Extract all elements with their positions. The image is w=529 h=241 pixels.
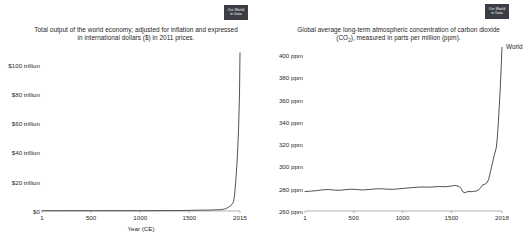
chart-title-line-2: in international dollars ($) in 2011 pri… — [78, 34, 195, 41]
logo-line-2: in Data — [224, 12, 248, 16]
x-axis-tick-label: 1500 — [445, 214, 459, 221]
chart-panel-world-gdp: Our World in Data Total output of the wo… — [0, 0, 264, 241]
y-axis-tick-label: 260 ppm — [264, 208, 303, 215]
x-axis-tick-label: 1 — [40, 214, 43, 221]
y-axis-tick-label: $40 trillion — [0, 149, 40, 156]
chart-title-line-1-post: ), — [351, 34, 355, 41]
x-axis-tick-label: 1500 — [182, 214, 196, 221]
logo-line-2: in Data — [485, 11, 509, 15]
series-label-world: World — [506, 43, 523, 50]
x-axis-label-world-gdp: Year (CE) — [128, 225, 155, 232]
plot-area-world-gdp — [42, 50, 240, 211]
y-axis-tick-label: $0 — [0, 208, 40, 215]
x-axis-tick-label: 500 — [349, 214, 359, 221]
y-axis-tick-label: $80 trillion — [0, 90, 40, 97]
x-axis-tick-label: 1000 — [133, 214, 147, 221]
chart-title-world-gdp: Total output of the world economy; adjus… — [0, 26, 264, 43]
our-world-in-data-logo[interactable]: Our World in Data — [224, 5, 248, 20]
y-axis-tick-label: 320 ppm — [264, 141, 303, 148]
chart-title-line-1: Total output of the world economy; adjus… — [34, 26, 238, 33]
y-axis-tick-label: 340 ppm — [264, 118, 303, 125]
x-axis-tick-label: 1000 — [396, 214, 410, 221]
y-axis-tick-label: 360 ppm — [264, 96, 303, 103]
y-axis-tick-label: $20 trillion — [0, 178, 40, 185]
x-axis-tick-label: 2015 — [233, 214, 247, 221]
y-axis-tick-label: 380 ppm — [264, 74, 303, 81]
y-axis-tick-label: 400 ppm — [264, 52, 303, 59]
y-axis-tick-label: 280 ppm — [264, 185, 303, 192]
plot-area-co2-concentration — [305, 44, 502, 211]
chart-title-subscript: 2 — [348, 38, 351, 43]
y-axis-tick-label: 300 ppm — [264, 163, 303, 170]
y-axis-tick-label: $60 trillion — [0, 120, 40, 127]
chart-svg-world-gdp — [42, 50, 240, 213]
chart-title-line-2: measured in parts per million (ppm). — [357, 34, 461, 41]
chart-svg-co2-concentration — [305, 44, 502, 213]
x-axis-tick-label: 500 — [86, 214, 96, 221]
x-axis-tick-label: 2018 — [495, 214, 509, 221]
our-world-in-data-logo[interactable]: Our World in Data — [485, 4, 509, 19]
screenshot-root: Our World in Data Total output of the wo… — [0, 0, 529, 241]
data-line-world — [305, 47, 502, 193]
y-axis-tick-label: $100 trillion — [0, 61, 40, 68]
data-line-world — [42, 53, 240, 211]
x-axis-tick-label: 1 — [303, 214, 306, 221]
chart-panel-co2-concentration: Our World in Data Global average long-te… — [264, 0, 529, 241]
chart-title-co2: Global average long-term atmospheric con… — [264, 26, 529, 44]
